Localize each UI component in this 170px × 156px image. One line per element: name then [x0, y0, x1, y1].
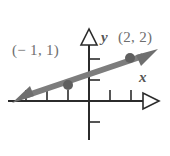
- point-label-a: (− 1, 1): [12, 43, 59, 58]
- x-axis-arrowhead-icon: [143, 93, 159, 109]
- point-marker-a: [63, 80, 73, 90]
- x-axis-label: x: [139, 70, 147, 85]
- y-axis-label: y: [101, 30, 108, 45]
- plotted-line: [25, 56, 143, 96]
- figure-canvas: (− 1, 1) (2, 2) y x: [0, 0, 170, 156]
- y-axis-arrowhead-icon: [81, 29, 97, 45]
- point-marker-b: [125, 53, 135, 63]
- line-arrowhead-right-icon: [136, 49, 158, 66]
- point-label-b: (2, 2): [118, 30, 152, 45]
